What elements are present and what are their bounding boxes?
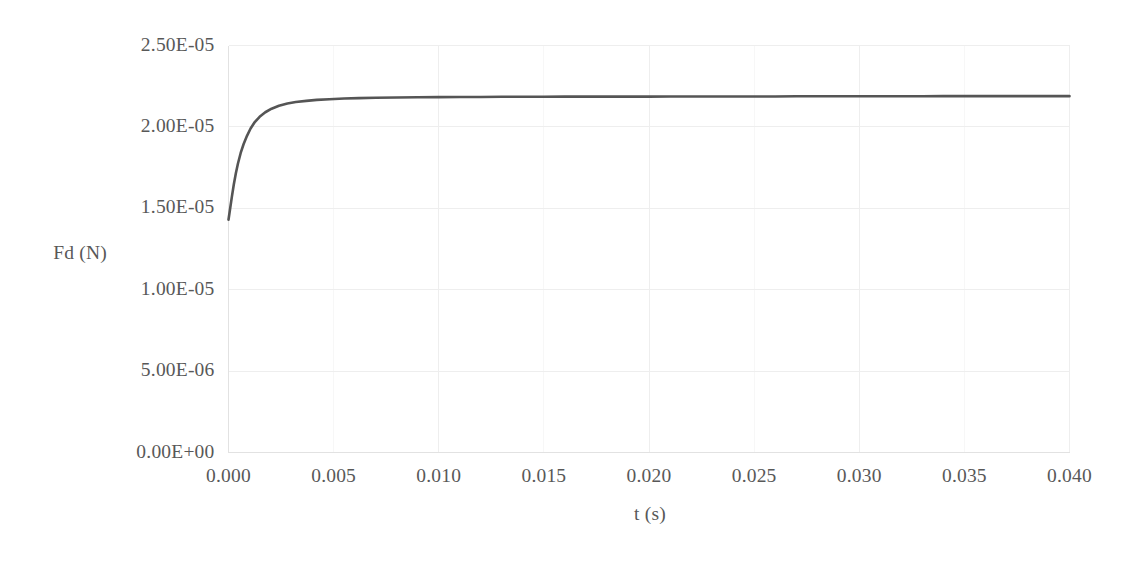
x-tick-label: 0.030 xyxy=(799,465,919,487)
y-tick-label: 1.50E-05 xyxy=(95,196,215,218)
x-axis-title: t (s) xyxy=(580,503,720,525)
y-tick-label: 5.00E-06 xyxy=(95,359,215,381)
x-tick-label: 0.000 xyxy=(169,465,289,487)
x-tick-label: 0.040 xyxy=(1010,465,1123,487)
y-axis-title: Fd (N) xyxy=(10,242,150,264)
x-tick-label: 0.015 xyxy=(484,465,604,487)
y-tick-label: 2.00E-05 xyxy=(95,115,215,137)
chart-container: 0.00E+005.00E-061.00E-051.50E-052.00E-05… xyxy=(0,0,1123,565)
x-tick-label: 0.010 xyxy=(379,465,499,487)
y-tick-label: 1.00E-05 xyxy=(95,278,215,300)
x-tick-label: 0.035 xyxy=(904,465,1024,487)
y-tick-label: 0.00E+00 xyxy=(95,441,215,463)
x-tick-label: 0.020 xyxy=(589,465,709,487)
vertical-gridlines xyxy=(334,46,1070,453)
y-tick-label: 2.50E-05 xyxy=(95,34,215,56)
x-tick-label: 0.005 xyxy=(274,465,394,487)
x-tick-label: 0.025 xyxy=(694,465,814,487)
